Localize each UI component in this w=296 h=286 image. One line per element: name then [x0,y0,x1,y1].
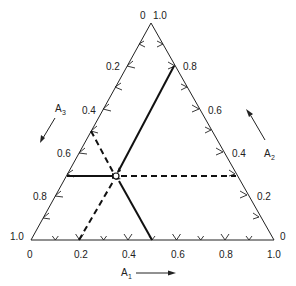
top-label-left: 0 [140,10,146,21]
svg-text:A: A [121,267,128,278]
dashed-line-bottom [79,180,114,240]
svg-text:2: 2 [271,154,275,161]
a3-tick-0-2: 0.2 [106,61,120,72]
dashed-line-left [91,131,113,172]
axis-label-a3: A 3 [40,103,66,143]
a3-tick-0-8: 0.8 [33,191,47,202]
a1-direction-arrow-icon [168,271,176,276]
a1-tick-0-6: 0.6 [171,249,185,260]
svg-text:A: A [55,103,62,114]
a3-tick-0-4: 0.4 [82,105,96,116]
composition-point [113,173,119,179]
bl-label-left: 1.0 [10,231,24,242]
ternary-diagram: 0 1.0 1.0 0 0 1.0 0.2 0.4 0.6 0.8 0.2 0.… [0,0,296,286]
svg-text:A: A [264,148,271,159]
a3-tick-0-6: 0.6 [57,148,71,159]
solid-line-a2 [118,66,174,172]
a2-tick-0-4: 0.4 [232,148,246,159]
a2-tick-0-2: 0.2 [257,191,271,202]
top-label-right: 1.0 [153,10,167,21]
a2-tick-0-8: 0.8 [183,61,197,72]
axis-label-a2: A 2 [246,109,275,161]
a2-tick-0-6: 0.6 [208,105,222,116]
bl-label-below: 0 [27,249,33,260]
a1-tick-0-4: 0.4 [122,249,136,260]
svg-text:1: 1 [128,273,132,280]
br-label-below: 1.0 [267,249,281,260]
left-edge-ticks [43,41,145,219]
axis-label-a1: A 1 [121,267,176,280]
a1-tick-0-8: 0.8 [219,249,233,260]
solid-line-bottom [119,181,152,240]
br-label-right: 0 [280,231,286,242]
a2-direction-arrow-icon [246,109,253,117]
svg-text:3: 3 [62,109,66,116]
a1-tick-0-2: 0.2 [74,249,88,260]
triangle-frame [31,23,274,240]
